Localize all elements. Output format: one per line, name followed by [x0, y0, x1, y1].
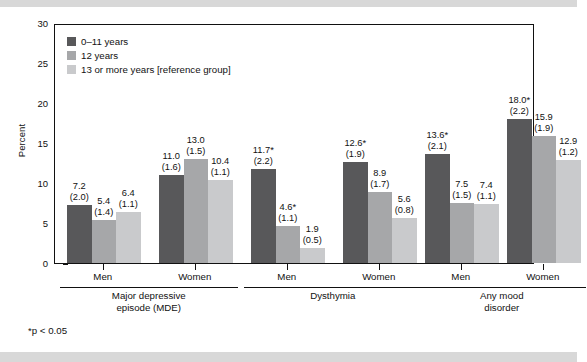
- bar-value-label: 1.9(0.5): [294, 224, 331, 246]
- group-bracket: [244, 287, 422, 288]
- group-label-line: Any mood: [480, 290, 524, 302]
- bar-value-label: 10.4(1.1): [202, 156, 239, 178]
- bar-value-label: 7.4(1.1): [468, 180, 505, 202]
- bar-value-label: 4.6*(1.1): [270, 202, 307, 224]
- group-label-line: disorder: [480, 302, 524, 314]
- bar-standard-error: (1.9): [337, 149, 374, 160]
- bar-standard-error: (1.1): [468, 191, 505, 202]
- bar-value: 11.7*: [245, 145, 282, 156]
- bar-value: 4.6*: [270, 202, 307, 213]
- bar-value: 12.9: [550, 136, 587, 147]
- bar-value-label: 6.4(1.1): [110, 188, 147, 210]
- plot-area: 0–11 years 12 years 13 or more years [re…: [54, 24, 534, 264]
- y-axis-tick-label: 25: [22, 58, 48, 69]
- bar-value-label: 12.6*(1.9): [337, 138, 374, 160]
- bar-value: 10.4: [202, 156, 239, 167]
- chart-bar: [116, 212, 141, 263]
- y-axis-tick-label: 30: [22, 18, 48, 29]
- bottom-decorative-band: [0, 352, 577, 362]
- significance-footnote: *p < 0.05: [28, 325, 67, 336]
- chart-bar: [159, 175, 184, 263]
- bar-chart-figure: Percent 302520151050 0–11 years 12 years…: [0, 7, 577, 352]
- bar-standard-error: (1.2): [550, 147, 587, 158]
- x-axis-tick-mark: [543, 264, 544, 270]
- y-axis-tick-label: 15: [22, 138, 48, 149]
- bar-standard-error: (1.9): [526, 123, 563, 134]
- bar-value: 6.4: [110, 188, 147, 199]
- group-label-line: episode (MDE): [112, 302, 186, 314]
- bar-value: 13.6*: [419, 130, 456, 141]
- x-axis-category-label: Men: [93, 271, 112, 282]
- y-axis-tick-labels: 302520151050: [14, 7, 48, 352]
- group-label-line: Dysthymia: [310, 290, 355, 302]
- bar-value-label: 8.9(1.7): [362, 168, 399, 190]
- group-label: Dysthymia: [310, 290, 355, 302]
- group-bracket: [60, 287, 238, 288]
- chart-bar: [425, 154, 450, 263]
- chart-bar: [92, 220, 117, 263]
- chart-bar: [392, 218, 417, 263]
- top-decorative-band: [0, 0, 577, 7]
- bar-value: 12.6*: [337, 138, 374, 149]
- x-axis-tick-mark: [195, 264, 196, 270]
- y-axis-tick-label: 10: [22, 178, 48, 189]
- group-bracket: [418, 287, 586, 288]
- x-axis-tick-mark: [379, 264, 380, 270]
- bar-value: 1.9: [294, 224, 331, 235]
- bar-value-label: 13.0(1.5): [178, 135, 215, 157]
- x-axis-category-label: Women: [362, 271, 395, 282]
- y-axis-tick-mark: [63, 264, 68, 265]
- x-axis-category-label: Men: [451, 271, 470, 282]
- chart-bar: [300, 248, 325, 263]
- bar-standard-error: (1.1): [202, 167, 239, 178]
- x-axis-tick-mark: [103, 264, 104, 270]
- x-axis-category-label: Women: [526, 271, 559, 282]
- chart-bar: [208, 180, 233, 263]
- bar-value-label: 13.6*(2.1): [419, 130, 456, 152]
- y-axis-tick-label: 5: [22, 218, 48, 229]
- bar-value: 8.9: [362, 168, 399, 179]
- bar-value: 5.6: [386, 194, 423, 205]
- bars-layer: 7.2(2.0)5.4(1.4)6.4(1.1)11.0(1.6)13.0(1.…: [55, 25, 533, 263]
- x-axis-category-label: Men: [277, 271, 296, 282]
- bar-standard-error: (1.1): [110, 199, 147, 210]
- bar-value: 7.4: [468, 180, 505, 191]
- chart-bar: [556, 160, 581, 263]
- group-label: Any mooddisorder: [480, 290, 524, 314]
- bar-value: 7.2: [61, 181, 98, 192]
- chart-bar: [450, 203, 475, 263]
- x-axis-tick-mark: [461, 264, 462, 270]
- bar-standard-error: (1.7): [362, 179, 399, 190]
- bar-standard-error: (2.2): [245, 156, 282, 167]
- group-label: Major depressiveepisode (MDE): [112, 290, 186, 314]
- chart-bar: [474, 204, 499, 263]
- bar-standard-error: (0.5): [294, 235, 331, 246]
- x-axis-tick-mark: [287, 264, 288, 270]
- bar-value: 13.0: [178, 135, 215, 146]
- bar-value-label: 11.7*(2.2): [245, 145, 282, 167]
- x-axis-category-label: Women: [178, 271, 211, 282]
- y-axis-tick-label: 0: [22, 258, 48, 269]
- bar-value: 18.0*: [501, 95, 538, 106]
- y-axis-tick-label: 20: [22, 98, 48, 109]
- bar-value: 15.9: [526, 112, 563, 123]
- bar-value-label: 5.6(0.8): [386, 194, 423, 216]
- bar-value-label: 15.9(1.9): [526, 112, 563, 134]
- bar-standard-error: (0.8): [386, 205, 423, 216]
- group-label-line: Major depressive: [112, 290, 186, 302]
- bar-value-label: 12.9(1.2): [550, 136, 587, 158]
- bar-standard-error: (1.1): [270, 213, 307, 224]
- chart-bar: [507, 119, 532, 263]
- bar-standard-error: (2.1): [419, 141, 456, 152]
